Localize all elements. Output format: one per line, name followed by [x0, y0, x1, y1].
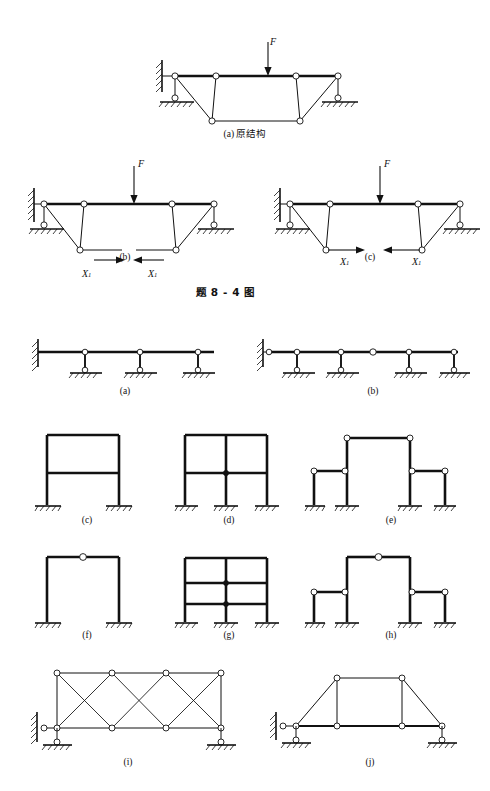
fixed-base-middle [214, 506, 238, 511]
fixed-base-portal-left [335, 623, 359, 628]
figure-bottom-panel-d [175, 428, 290, 518]
hinge-node [77, 247, 83, 253]
panel-caption-bottom-i: (i) [113, 757, 143, 767]
panel-caption-bottom-g: (g) [214, 630, 244, 640]
fixed-base-left [175, 506, 198, 511]
fixed-base-wing-left [305, 623, 325, 628]
figure-page: F (a) 原结构 [0, 0, 490, 791]
panel-caption-bottom-c: (c) [72, 515, 102, 525]
hinge-node [342, 589, 348, 595]
truss-joint [163, 670, 169, 676]
vertical-left [80, 204, 84, 250]
panel-caption-b: (b) [110, 252, 140, 262]
redundant-label-X1-left-c: X1 [340, 256, 349, 267]
support-column-3 [394, 349, 427, 378]
rigid-joint [224, 581, 229, 586]
hinge-node [442, 589, 448, 595]
panel-caption-bottom-h: (h) [376, 630, 406, 640]
truss-joint [54, 670, 60, 676]
hinge-node [407, 435, 413, 441]
wall-support-left [270, 712, 296, 740]
truss-joint [399, 723, 405, 729]
redundant-label-X1-right-b: X1 [148, 268, 157, 279]
hinge-node [211, 201, 217, 207]
crown-hinge [375, 554, 382, 561]
truss-joint [334, 723, 340, 729]
hinge-node [209, 118, 215, 124]
load-label-F-b: F [138, 158, 144, 169]
load-label-F-c: F [384, 158, 390, 169]
hinge-node [344, 435, 350, 441]
figure-bottom-panel-f [35, 545, 145, 635]
vertical-right [418, 204, 422, 250]
load-arrow-F [264, 42, 271, 76]
redundant-label-X1-right-c: X1 [412, 256, 421, 267]
figure-caption: 题 8 - 4 图 [196, 284, 255, 299]
hinge-node [327, 201, 333, 207]
figure-bottom-panel-g [175, 545, 290, 635]
support-roller-left [42, 728, 72, 750]
load-arrow-F [376, 166, 383, 204]
fixed-base-wing-right [434, 506, 456, 511]
hinge-node [415, 201, 421, 207]
vertical-right [172, 204, 176, 250]
hinge-node [293, 73, 299, 79]
support-right-roller [321, 76, 358, 107]
hinge-node [297, 118, 303, 124]
end-post-right [402, 678, 442, 726]
truss-joint [399, 675, 405, 681]
hinge-node [81, 201, 87, 207]
diagonal-right [176, 204, 214, 250]
wall-support-left [31, 712, 57, 744]
fixed-base-right [106, 506, 132, 511]
support-column-1 [69, 349, 102, 378]
truss-joint [109, 725, 115, 731]
fixed-wall-support [257, 339, 269, 371]
figure-bottom-panel-a [30, 335, 230, 390]
hinge-node [266, 349, 272, 355]
panel-caption-bottom-a: (a) [110, 386, 140, 396]
figure-bottom-panel-e [305, 428, 470, 518]
panel-caption-bottom-b: (b) [358, 386, 388, 396]
hinge-node [342, 468, 348, 474]
diagonal-left [44, 204, 80, 250]
support-right-roller [443, 204, 480, 234]
hinge-node-midspan [370, 349, 376, 355]
load-arrow-F [130, 166, 137, 204]
figure-bottom-panel-c [35, 428, 145, 518]
figure-bottom-panel-b [255, 335, 470, 390]
hinge-node [169, 201, 175, 207]
load-label-F-a: F [270, 36, 276, 47]
vertical-left [212, 76, 216, 121]
diagonal-right [300, 76, 338, 121]
support-column-3 [182, 349, 215, 378]
fixed-base-portal-right [398, 623, 422, 628]
fixed-base-wing-right [434, 623, 456, 628]
vertical-right [296, 76, 300, 121]
hinge-node [173, 247, 179, 253]
support-column-2 [124, 349, 157, 378]
fixed-base-wing-left [305, 506, 325, 511]
support-roller-left [281, 726, 311, 748]
truss-joint [109, 670, 115, 676]
support-column-4 [439, 349, 470, 378]
truss-joint [334, 675, 340, 681]
hinge-node [409, 589, 415, 595]
fixed-base-middle [214, 623, 238, 628]
hinge-node [442, 468, 448, 474]
hinge-node [409, 468, 415, 474]
rigid-joint [224, 602, 229, 607]
redundant-force-arrow-right [383, 247, 420, 254]
hinge-node [457, 201, 463, 207]
rigid-joint [223, 470, 228, 475]
crown-hinge [80, 554, 87, 561]
hinge-node [172, 73, 178, 79]
panel-caption-c: (c) [355, 252, 385, 262]
hinge-node [311, 589, 317, 595]
fixed-base-right [106, 623, 132, 628]
fixed-base-left [175, 623, 198, 628]
diagonal-left [175, 76, 212, 121]
fixed-base-portal-left [335, 506, 359, 511]
diagonal-right [422, 204, 460, 250]
panel-caption-bottom-j: (j) [355, 757, 385, 767]
